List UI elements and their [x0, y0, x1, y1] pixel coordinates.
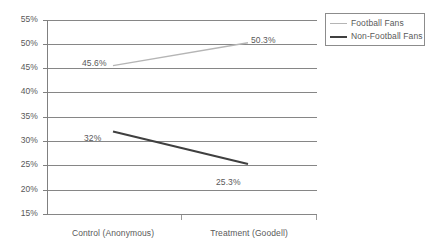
legend-label-football-fans: Football Fans — [351, 18, 404, 29]
gridline-40 — [47, 92, 317, 93]
line-football-fans — [113, 43, 248, 66]
y-tick-mark-50 — [43, 44, 47, 45]
y-tick-label-15: 15% — [0, 209, 38, 218]
y-tick-mark-40 — [43, 92, 47, 93]
legend-swatch-football-fans — [330, 23, 347, 24]
legend-label-non-football-fans: Non-Football Fans — [351, 31, 423, 42]
y-tick-mark-35 — [43, 117, 47, 118]
y-tick-label-55: 55% — [0, 15, 38, 24]
gridline-45 — [47, 68, 317, 69]
x-tick-mark-right — [316, 215, 317, 220]
gridline-20 — [47, 190, 317, 191]
y-tick-label-40: 40% — [0, 87, 38, 96]
data-label-non-football-fans-control: 32% — [84, 133, 101, 143]
y-tick-mark-15 — [43, 214, 47, 215]
legend-item-football-fans: Football Fans — [330, 17, 420, 30]
y-tick-label-30: 30% — [0, 136, 38, 145]
y-tick-mark-30 — [43, 141, 47, 142]
slope-chart: 55% 50% 45% 40% 35% 30% 25% 20% 15% Cont… — [0, 0, 444, 250]
x-tick-mark-mid — [181, 215, 182, 220]
data-label-football-fans-control: 45.6% — [82, 58, 107, 68]
gridline-50 — [47, 44, 317, 45]
gridline-25 — [47, 165, 317, 166]
y-tick-mark-45 — [43, 68, 47, 69]
y-axis-line — [47, 20, 48, 215]
line-non-football-fans — [113, 132, 248, 165]
y-tick-mark-55 — [43, 20, 47, 21]
y-tick-mark-20 — [43, 190, 47, 191]
legend-swatch-non-football-fans — [330, 36, 347, 38]
y-tick-label-50: 50% — [0, 39, 38, 48]
x-tick-label-treatment: Treatment (Goodell) — [194, 228, 304, 238]
y-tick-mark-25 — [43, 165, 47, 166]
y-tick-label-45: 45% — [0, 63, 38, 72]
gridline-55 — [47, 20, 317, 21]
legend-item-non-football-fans: Non-Football Fans — [330, 30, 420, 43]
x-tick-label-control: Control (Anonymous) — [58, 228, 168, 238]
chart-legend: Football Fans Non-Football Fans — [325, 13, 425, 46]
gridline-35 — [47, 117, 317, 118]
data-label-non-football-fans-treatment: 25.3% — [216, 177, 241, 187]
y-tick-label-20: 20% — [0, 185, 38, 194]
gridline-15 — [47, 214, 317, 215]
y-tick-label-35: 35% — [0, 112, 38, 121]
y-tick-label-25: 25% — [0, 160, 38, 169]
data-label-football-fans-treatment: 50.3% — [251, 35, 276, 45]
